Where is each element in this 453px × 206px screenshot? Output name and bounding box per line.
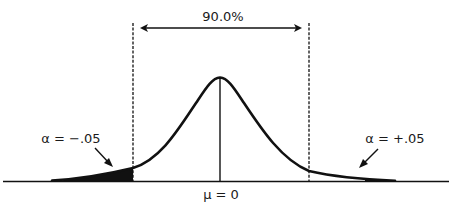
distribution-diagram: 90.0% α = −.05 α = +.05 μ = 0 [0,0,453,206]
interval-label: 90.0% [202,9,243,24]
right-tail-label: α = +.05 [365,131,424,146]
left-tail-pointer-arrow [95,148,113,167]
right-tail-pointer-arrow [359,149,378,168]
interval-double-arrow [140,24,302,32]
mean-label: μ = 0 [203,187,239,202]
bell-curve [52,78,395,181]
left-tail-label: α = −.05 [41,131,100,146]
